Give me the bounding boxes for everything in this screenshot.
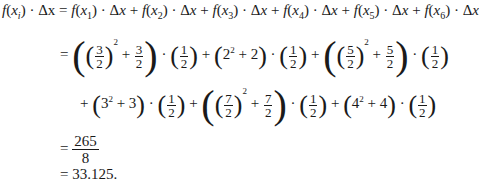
result-fraction: 2658 xyxy=(72,133,99,166)
equation-line-4: = 2658 xyxy=(60,133,99,166)
equation-line-3: + (32 + 3) · (12) + ((72)2 + 72) · (12) … xyxy=(80,85,436,125)
equation-line-1: f(xi) · Δx = f(x1) · Δx + f(x2) · Δx + f… xyxy=(2,2,479,21)
result-decimal: 33.125. xyxy=(72,166,117,182)
sum-rhs: = f(x1) · Δx + f(x2) · Δx + f(x3) · Δx +… xyxy=(59,2,479,18)
fraction: 32 xyxy=(95,43,104,70)
equation-line-2: = ((32)2 + 32) · (12) + (22 + 2) · (12) … xyxy=(60,36,449,76)
sum-lhs: f(xi) · Δx xyxy=(2,2,55,18)
equation-line-5: = 33.125. xyxy=(60,166,117,183)
